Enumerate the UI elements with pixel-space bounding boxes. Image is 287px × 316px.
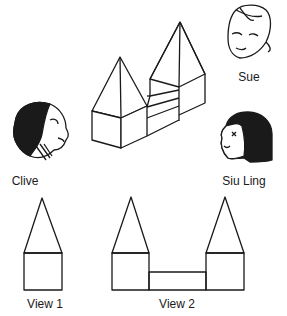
isometric-solid — [92, 22, 205, 148]
view-1-drawing — [24, 198, 62, 290]
siu-ling-face-icon — [221, 112, 272, 162]
label-view-2: View 2 — [159, 297, 195, 311]
label-clive: Clive — [12, 174, 39, 188]
right-tower — [150, 22, 205, 115]
diagram-drawing — [0, 0, 287, 316]
connector-block — [147, 90, 179, 118]
label-siu-ling: Siu Ling — [222, 174, 265, 188]
sue-face-icon — [228, 5, 271, 58]
clive-face-icon — [14, 103, 69, 160]
view-2-drawing — [112, 197, 244, 290]
left-tower — [92, 57, 179, 148]
label-sue: Sue — [238, 70, 259, 84]
diagram-stage: Sue Clive Siu Ling View 1 View 2 — [0, 0, 287, 316]
label-view-1: View 1 — [27, 297, 63, 311]
